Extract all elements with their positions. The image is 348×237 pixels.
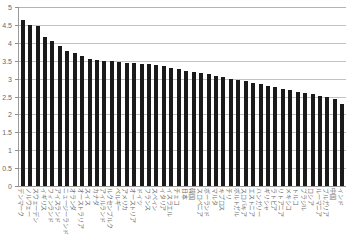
bar [244,81,248,186]
x-axis-tick-label: オーストリア [130,188,136,223]
bar [154,65,158,186]
y-axis-tick-label: 1 [8,147,12,154]
x-axis-tick-label: ギリシャ [264,188,270,211]
x-axis-tick-label: キプロス [219,188,225,211]
bar-chart: 00.511.522.533.544.55 デンマークノルウェースウェーデンイギ… [0,0,348,237]
bar [80,56,84,186]
x-axis-tick-label: アメリカ [122,188,128,211]
x-axis-tick-label: ノルウェー [26,188,32,217]
bar [311,94,315,186]
bar [199,73,203,186]
x-axis-tick-label: イタリア [160,188,166,211]
x-axis-tick-label: デンマーク [18,188,24,217]
bar [333,99,337,186]
x-axis-tick-label: チェコ [174,188,180,205]
x-axis-tick-label: ブラジル [301,188,307,211]
x-axis-tick-label: オランダ [70,188,76,211]
x-axis-tick-label: メキシコ [286,188,292,211]
x-axis-tick-label: ルクセンブルク [107,188,113,229]
bar [117,62,121,186]
bar [207,74,211,186]
x-axis-labels: デンマークノルウェースウェーデンイギリスフィンランドアイスランドニュージーランド… [18,188,345,237]
y-axis-tick-label: 1.5 [2,129,12,136]
bar [229,79,233,186]
x-axis-tick-label: ニュージーランド [63,188,69,234]
bar [147,64,151,186]
x-axis-tick-label: リトアニア [278,188,284,217]
bar [102,61,106,186]
y-axis-tick-label: 3.5 [2,57,12,64]
x-axis-tick-label: 韓国 [189,188,195,200]
x-axis-tick-label: アイルランド [100,188,106,223]
bar [58,46,62,186]
bar [273,87,277,186]
x-axis-tick-label: イギリス [41,188,47,211]
bar-series [19,7,346,186]
x-axis-tick-label: フィンランド [48,188,54,223]
y-axis-tick-label: 2 [8,111,12,118]
x-axis-tick-label: フランス [145,188,151,211]
y-axis-tick [15,186,19,187]
bar [318,96,322,186]
bar [177,69,181,186]
bar [303,93,307,186]
bar [236,80,240,186]
x-axis-tick-label: 中国 [330,188,336,200]
x-axis-tick-label: ロシア [308,188,314,205]
x-axis-tick-label: スウェーデン [33,188,39,223]
bar [288,90,292,186]
y-axis-tick-label: 2.5 [2,93,12,100]
bar [36,26,40,186]
bar [169,68,173,186]
bar [192,72,196,186]
x-axis-tick-label: ポルトガル [234,188,240,217]
x-axis-tick-label: エストニア [249,188,255,217]
bar [88,59,92,186]
x-axis-tick-label: カナダ [93,188,99,205]
x-axis-tick-label: スロベニア [197,188,203,217]
bar [162,66,166,186]
x-axis-tick-label: ポーランド [204,188,210,217]
x-axis-tick-label: ハンガリー [256,188,262,217]
x-axis-tick-label: ラトビア [271,188,277,211]
y-axis-tick-label: 0.5 [2,165,12,172]
bar [95,60,99,186]
bar [140,64,144,186]
bar [43,37,47,186]
x-axis-tick-label: トルコ [293,188,299,205]
bar [125,63,129,187]
bar [28,25,32,186]
x-axis-tick-label: 日本 [182,188,188,200]
bar [296,92,300,187]
bar [132,63,136,186]
bar [65,51,69,186]
plot-area [18,7,346,187]
x-axis-tick-label: オーストラリア [78,188,84,229]
bar [259,84,263,186]
x-axis-tick-label: ルーマニア [316,188,322,217]
bar [73,53,77,186]
chart-title [196,0,348,7]
x-axis-tick-label: イスラエル [167,188,173,217]
bar [110,61,114,186]
bar [266,86,270,186]
x-axis-tick-label: スイス [85,188,91,205]
x-axis-tick-label: ブルガリア [323,188,329,217]
x-axis-tick-label: アイスランド [55,188,61,223]
y-axis-tick-label: 0 [8,183,12,190]
bar [325,97,329,186]
x-axis-tick-label: ベルギー [115,188,121,211]
x-axis-tick-label: マルタ [212,188,218,205]
x-axis-tick-label: スロバキア [241,188,247,217]
x-axis-tick-label: ドイツ [137,188,143,205]
x-axis-tick-label: インド [338,188,344,205]
bar [281,89,285,186]
bar [184,71,188,186]
y-axis-tick-label: 4.5 [2,21,12,28]
bar [340,104,344,186]
x-axis-tick-label: チリ [226,188,232,200]
bar [214,76,218,186]
bar [21,20,25,186]
y-axis-tick-label: 4 [8,39,12,46]
bar [50,41,54,186]
